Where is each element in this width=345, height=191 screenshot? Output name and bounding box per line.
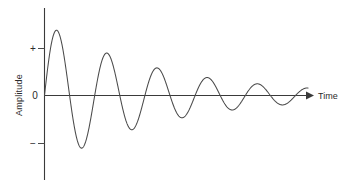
x-axis-arrow-icon — [306, 92, 314, 100]
y-axis-label: Amplitude — [14, 74, 24, 116]
y-tick-label-negative: − — [30, 138, 36, 149]
chart-svg: + 0 − Amplitude Time — [0, 0, 345, 191]
y-tick-label-zero: 0 — [32, 90, 38, 101]
damped-sine-curve — [45, 30, 309, 148]
x-axis-label: Time — [318, 91, 338, 101]
damped-oscillation-figure: + 0 − Amplitude Time — [0, 0, 345, 191]
y-tick-label-positive: + — [30, 43, 36, 54]
